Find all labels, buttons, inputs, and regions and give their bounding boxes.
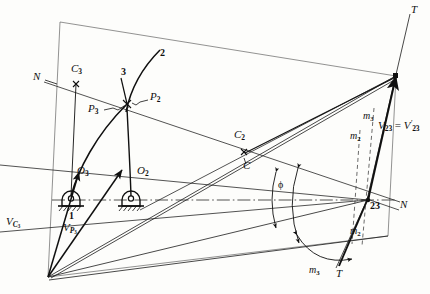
diagram-canvas xyxy=(0,0,430,294)
instant-centre-label-23: 23 xyxy=(370,201,380,211)
point-label-c: C xyxy=(243,160,250,171)
tangent-line-t-t xyxy=(336,14,410,268)
pivot-label-o2: O2 xyxy=(137,165,149,178)
outer-construction-frame xyxy=(48,22,396,277)
frame-link-number-1: 1 xyxy=(69,211,74,221)
construction-line-c2-c xyxy=(140,76,396,210)
point-label-c2: C2 xyxy=(234,129,245,142)
tangent-line-label-top: T xyxy=(411,4,417,15)
velocity-image-rays xyxy=(48,77,396,280)
point-label-p3: P3 xyxy=(88,103,98,116)
pivot-label-o3: O3 xyxy=(77,165,89,178)
link-2-radius-line xyxy=(127,108,131,196)
normal-line-n-n xyxy=(44,82,400,202)
velocity-vector-v23 xyxy=(368,76,396,200)
point-label-p2: P2 xyxy=(150,91,160,104)
slope-label-m2-top: m2 xyxy=(350,131,361,143)
radius-line-c3-o3 xyxy=(71,84,76,196)
slope-label-m3-bottom: m3 xyxy=(309,265,320,277)
velocity-label-v23: V23 = V′23 xyxy=(378,120,420,133)
link-number-2: 2 xyxy=(160,48,165,58)
slope-label-m2-bottom: m2 xyxy=(350,226,361,238)
link-3-curve xyxy=(71,105,126,196)
velocity-label-vp3: VP3 xyxy=(63,222,77,235)
velocity-label-vc3: VC3 xyxy=(6,216,20,229)
link-number-3: 3 xyxy=(121,67,126,77)
velocity-vector-vp3 xyxy=(48,170,122,277)
point-label-c3: C3 xyxy=(71,63,82,76)
normal-line-label-left: N xyxy=(33,71,40,82)
kinematic-velocity-diagram: N C3 3 2 P2 P3 O3 O2 1 VC3 VP3 C2 C ϕ 23… xyxy=(0,0,430,294)
apex-node-marker xyxy=(393,73,398,78)
normal-line-label-right: N xyxy=(400,199,407,210)
angle-arc-phi-outer xyxy=(292,168,299,243)
angle-label-phi: ϕ xyxy=(278,180,283,190)
slope-label-m3-top: m3 xyxy=(363,111,374,123)
tangent-line-label-bottom: T xyxy=(336,268,342,279)
